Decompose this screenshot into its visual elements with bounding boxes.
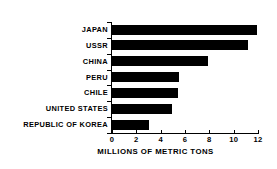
bar-china <box>112 56 208 66</box>
bar-united-states <box>112 104 172 114</box>
x-axis-tick <box>209 130 210 133</box>
bar-peru <box>112 72 179 82</box>
plot-area <box>112 22 258 133</box>
y-axis-tick <box>107 38 111 39</box>
x-axis-tick <box>161 130 162 133</box>
y-axis-label-peru: PERU <box>0 70 108 86</box>
x-axis-tick-label: 2 <box>123 135 149 144</box>
bar-chart: JAPAN USSR CHINA PERU CHILE UNITED STATE… <box>0 0 277 169</box>
bar-chile <box>112 88 178 98</box>
y-axis-label-chile: CHILE <box>0 85 108 101</box>
bar-row-chile <box>112 85 258 101</box>
x-axis-tick-label: 0 <box>99 135 125 144</box>
bar-row-japan <box>112 22 258 38</box>
y-axis-category-labels: JAPAN USSR CHINA PERU CHILE UNITED STATE… <box>0 22 108 133</box>
x-axis-tick-label: 6 <box>172 135 198 144</box>
x-axis-tick-label: 8 <box>196 135 222 144</box>
bar-row-peru <box>112 70 258 86</box>
y-axis-label-china: CHINA <box>0 54 108 70</box>
y-axis-label-united-states: UNITED STATES <box>0 101 108 117</box>
y-axis-tick <box>107 117 111 118</box>
y-axis-label-japan: JAPAN <box>0 22 108 38</box>
bar-japan <box>112 25 257 35</box>
bar-row-china <box>112 54 258 70</box>
y-axis-label-ussr: USSR <box>0 38 108 54</box>
x-axis-tick <box>112 130 113 133</box>
x-axis-tick-label: 10 <box>221 135 247 144</box>
x-axis-tick-label: 12 <box>245 135 271 144</box>
y-axis-tick <box>107 85 111 86</box>
y-axis-tick <box>107 22 111 23</box>
x-axis-tick <box>258 130 259 133</box>
x-axis-title: MILLIONS OF METRIC TONS <box>0 147 277 156</box>
y-axis-tick <box>107 133 111 134</box>
y-axis-tick <box>107 101 111 102</box>
y-axis-tick <box>107 70 111 71</box>
x-axis-tick <box>185 130 186 133</box>
y-axis-tick <box>107 54 111 55</box>
bar-republic-of-korea <box>112 120 149 130</box>
bar-ussr <box>112 40 248 50</box>
bar-row-ussr <box>112 38 258 54</box>
bar-row-united-states <box>112 101 258 117</box>
x-axis-tick <box>136 130 137 133</box>
y-axis-label-republic-of-korea: REPUBLIC OF KOREA <box>0 117 108 133</box>
x-axis-tick <box>234 130 235 133</box>
x-axis-tick-label: 4 <box>148 135 174 144</box>
